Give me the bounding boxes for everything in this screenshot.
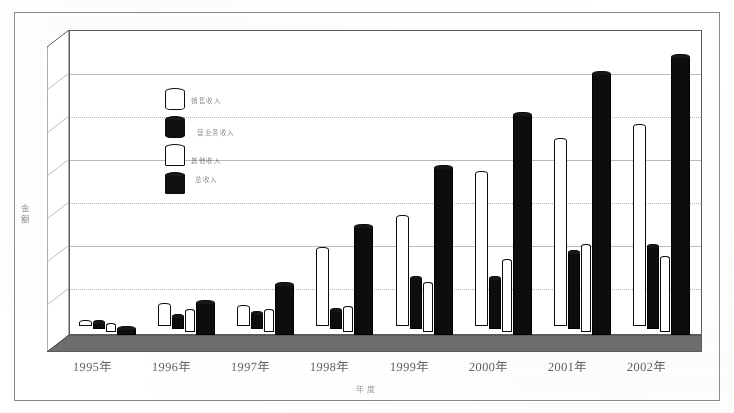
bar-group: [79, 30, 144, 335]
bar-top-cap: [237, 305, 250, 309]
bar-top-cap: [568, 250, 580, 254]
bar-top-cap: [434, 165, 453, 169]
x-axis-tick-label: 2001年: [547, 356, 587, 375]
bar-white-cube: [660, 259, 670, 332]
bar-white-cylinder: [475, 174, 488, 326]
chart-floor: [47, 335, 702, 352]
bar-white-cube: [185, 312, 195, 333]
bar-black-cylinder: [568, 253, 580, 329]
bar-black-cube: [117, 329, 136, 335]
bar-white-cylinder: [237, 308, 250, 326]
x-axis-tick-label: 1999年: [389, 356, 429, 375]
legend-item[interactable]: 总收入: [165, 172, 295, 200]
bar-top-cap: [410, 276, 422, 280]
bar-white-cylinder: [158, 306, 171, 327]
x-axis-tick-label: 2002年: [627, 356, 667, 375]
bar-black-cube: [592, 74, 611, 335]
bar-top-cap: [396, 215, 409, 219]
x-axis-tick-label: 1996年: [152, 356, 192, 375]
x-axis-tick-label: 2000年: [468, 356, 508, 375]
bar-white-cube: [502, 262, 512, 332]
x-axis-tick-labels: 1995年1996年1997年1998年1999年2000年2001年2002年: [47, 356, 702, 378]
x-axis-tick-label: 1997年: [231, 356, 271, 375]
bar-top-cap: [554, 138, 567, 142]
bar-top-cap: [185, 309, 195, 313]
bar-black-cylinder: [330, 311, 342, 329]
legend-item[interactable]: 营业务收入: [165, 116, 295, 144]
legend-item-label: 销售收入: [191, 95, 221, 105]
bar-top-cap: [475, 171, 488, 175]
legend-item-label: 其他收入: [191, 155, 221, 165]
bar-white-cube: [581, 247, 591, 332]
bar-white-cylinder: [396, 218, 409, 326]
bar-group: [633, 30, 698, 335]
bar-black-cylinder: [172, 317, 184, 329]
bar-black-cylinder: [647, 247, 659, 329]
bar-top-cap: [172, 314, 184, 318]
bar-white-cube: [423, 285, 433, 332]
bar-white-cylinder: [79, 323, 92, 326]
chart-legend: 销售收入 营业务收入 其他收入 总收入: [165, 88, 295, 200]
bar-top-cap: [502, 259, 512, 263]
bar-white-cylinder: [316, 250, 329, 326]
bar-top-cap: [158, 303, 171, 307]
scanned-page: 金额: [0, 0, 734, 413]
bar-top-cap: [330, 308, 342, 312]
legend-item-label: 总收入: [195, 174, 218, 184]
bar-top-cap: [343, 306, 353, 310]
bar-top-cap: [581, 244, 591, 248]
bar-top-cap: [117, 326, 136, 330]
bar-white-cube: [106, 326, 116, 332]
bar-white-cube: [264, 312, 274, 333]
bar-top-cap: [316, 247, 329, 251]
bar-black-cube: [275, 285, 294, 335]
bar-black-cylinder: [489, 279, 501, 329]
bar-group: [316, 30, 381, 335]
bar-black-cube: [434, 168, 453, 335]
bar-black-cube: [196, 303, 215, 335]
bar-black-cylinder: [251, 314, 263, 329]
bar-top-cap: [647, 244, 659, 248]
bar-top-cap: [592, 71, 611, 75]
white-cylinder-icon: [165, 90, 185, 110]
y-axis-title: 金额: [18, 203, 32, 225]
black-cylinder-icon: [165, 118, 185, 138]
bar-black-cube: [671, 57, 690, 335]
chart-3d-box: 销售收入 营业务收入 其他收入 总收入: [47, 30, 702, 352]
bar-black-cube: [354, 227, 373, 335]
bar-top-cap: [79, 320, 92, 324]
bar-white-cylinder: [633, 127, 646, 326]
bar-top-cap: [660, 256, 670, 260]
black-cube-icon: [165, 174, 185, 194]
bar-top-cap: [275, 282, 294, 286]
bar-white-cylinder: [554, 141, 567, 326]
bar-top-cap: [106, 323, 116, 327]
bar-top-cap: [671, 54, 690, 58]
bar-top-cap: [251, 311, 263, 315]
bar-top-cap: [93, 320, 105, 324]
bar-group: [475, 30, 540, 335]
bar-top-cap: [633, 124, 646, 128]
bar-top-cap: [513, 112, 532, 116]
bar-group: [554, 30, 619, 335]
bar-top-cap: [196, 300, 215, 304]
bar-white-cube: [343, 309, 353, 332]
bar-top-cap: [489, 276, 501, 280]
bar-top-cap: [264, 309, 274, 313]
plot-area: [69, 30, 702, 335]
x-axis-title: 年度: [0, 383, 734, 394]
bar-top-cap: [354, 224, 373, 228]
bar-group: [396, 30, 461, 335]
chart-left-wall: [47, 30, 70, 352]
x-axis-tick-label: 1998年: [310, 356, 350, 375]
white-cube-icon: [165, 146, 185, 166]
bar-black-cylinder: [93, 323, 105, 329]
legend-item[interactable]: 销售收入: [165, 88, 295, 116]
bar-top-cap: [423, 282, 433, 286]
bar-black-cylinder: [410, 279, 422, 329]
x-axis-tick-label: 1995年: [73, 356, 113, 375]
bar-black-cube: [513, 115, 532, 335]
legend-item[interactable]: 其他收入: [165, 144, 295, 172]
legend-item-label: 营业务收入: [197, 127, 235, 137]
